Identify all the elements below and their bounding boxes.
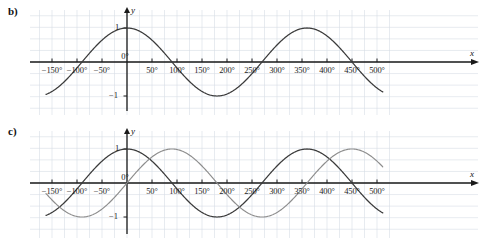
x-tick-label-b-3: 0° <box>106 52 144 61</box>
plot-area-b <box>0 0 485 122</box>
y-axis-label-c: y <box>131 127 135 136</box>
chart-svg-c <box>0 118 485 245</box>
x-tick-label-c-3: 0° <box>106 173 144 182</box>
x-axis-arrow <box>471 59 479 65</box>
y-axis-label-b: y <box>131 6 135 15</box>
x-axis-arrow <box>471 180 479 186</box>
x-tick-label-b-2: −50° <box>83 66 121 75</box>
y-tick-label-c-0: 1 <box>115 144 119 153</box>
y-axis-arrow <box>124 128 130 134</box>
plot-area-c <box>0 118 485 245</box>
panel-c: c) −150°−100°−50°0°50°100°150°200°250°30… <box>0 118 485 245</box>
y-tick-label-c-1: −1 <box>109 212 118 221</box>
x-tick-label-c-13: 500° <box>358 187 396 196</box>
y-tick-label-b-0: 1 <box>115 23 119 32</box>
grid-lines <box>30 131 478 238</box>
y-tick-label-b-1: −1 <box>109 91 118 100</box>
x-tick-label-c-2: −50° <box>83 187 121 196</box>
x-axis-label-c: x <box>470 170 474 179</box>
x-axis-label-b: x <box>470 49 474 58</box>
chart-svg-b <box>0 0 485 122</box>
x-tick-label-b-13: 500° <box>358 66 396 75</box>
y-axis-arrow <box>124 7 130 13</box>
panel-b: b) −150°−100°−50°0°50°100°150°200°250°30… <box>0 0 485 122</box>
